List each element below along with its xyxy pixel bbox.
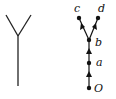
- arrow-up-icon: [86, 48, 92, 54]
- arrow-up-icon: [86, 71, 92, 77]
- node-b: [87, 38, 91, 42]
- label-O: O: [94, 82, 103, 95]
- node-O: [87, 86, 91, 90]
- label-b: b: [95, 36, 102, 49]
- arrow-to-d-icon: [92, 23, 97, 30]
- label-d: d: [98, 2, 105, 15]
- y-shape-tree: [6, 15, 31, 86]
- label-a: a: [96, 56, 103, 69]
- node-a: [87, 61, 91, 65]
- node-d: [96, 16, 100, 20]
- node-c: [77, 16, 81, 20]
- diagram-canvas: c d b a O: [0, 0, 116, 99]
- label-c: c: [74, 2, 80, 15]
